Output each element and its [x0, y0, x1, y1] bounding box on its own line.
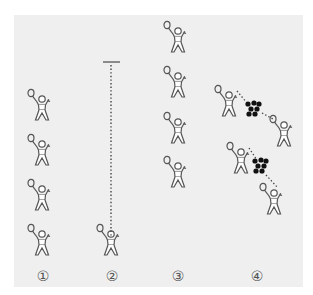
badminton-player-icon [258, 183, 288, 217]
player-figure [26, 89, 56, 123]
badminton-player-icon [162, 156, 192, 190]
column-label-3: ③ [168, 268, 188, 284]
player-figure [258, 183, 288, 217]
player-figure [26, 224, 56, 258]
player-figure [213, 85, 243, 119]
player-figure [225, 142, 255, 176]
badminton-player-icon [26, 224, 56, 258]
player-figure [162, 21, 192, 55]
badminton-player-icon [162, 112, 192, 146]
badminton-player-icon [26, 89, 56, 123]
player-figure [162, 156, 192, 190]
badminton-player-icon [162, 66, 192, 100]
badminton-player-icon [26, 134, 56, 168]
player-figure [268, 115, 298, 149]
badminton-player-icon [95, 224, 125, 258]
badminton-player-icon [26, 179, 56, 213]
column-label-1: ① [33, 268, 53, 284]
badminton-player-icon [213, 85, 243, 119]
player-figure [95, 224, 125, 258]
column-label-4: ④ [247, 268, 267, 284]
badminton-player-icon [162, 21, 192, 55]
badminton-player-icon [225, 142, 255, 176]
player-figure [26, 179, 56, 213]
diagram-panel [14, 15, 303, 287]
player-figure [162, 66, 192, 100]
player-figure [162, 112, 192, 146]
badminton-player-icon [268, 115, 298, 149]
player-figure [26, 134, 56, 168]
column-label-2: ② [102, 268, 122, 284]
